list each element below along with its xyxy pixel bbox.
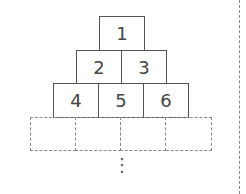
empty-cell-4 — [166, 117, 212, 151]
cell-2: 2 — [76, 50, 122, 84]
vertical-dashed-divider — [239, 0, 240, 194]
empty-cell-3 — [120, 117, 166, 151]
cell-5: 5 — [98, 83, 144, 118]
cell-4: 4 — [53, 83, 99, 118]
cell-3: 3 — [121, 50, 167, 84]
empty-cell-2 — [75, 117, 121, 151]
continuation-dots: ⋮ — [113, 156, 127, 174]
cell-6: 6 — [143, 83, 189, 118]
empty-cell-1 — [30, 117, 76, 151]
cell-1: 1 — [99, 16, 145, 51]
